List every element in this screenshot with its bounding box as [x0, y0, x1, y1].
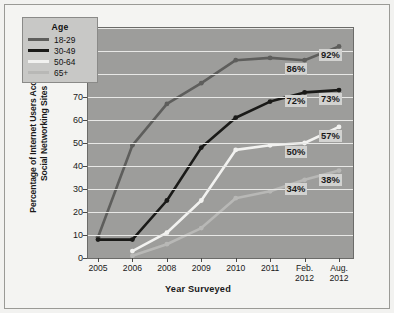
y-axis-tick-label: 30: [59, 184, 83, 194]
legend-item-label: 65+: [54, 68, 68, 78]
legend-rows: 18-2930-4950-6465+: [28, 34, 92, 78]
data-point-18-29: [302, 58, 307, 63]
legend: Age 18-2930-4950-6465+: [22, 17, 98, 83]
legend-item-label: 18-29: [54, 35, 75, 45]
series-line-30-49: [98, 90, 339, 240]
data-point-65+: [337, 168, 342, 173]
x-axis-tick-mark: [201, 258, 202, 262]
data-point-18-29: [233, 58, 238, 63]
data-point-50-64: [130, 249, 135, 254]
data-point-30-49: [268, 99, 273, 104]
plot-area: [87, 27, 354, 259]
y-axis-tick-mark: [83, 189, 87, 190]
x-axis-tick-label: Aug.2012: [316, 263, 362, 283]
chart-figure: Percentage of Internet Users Accessing S…: [0, 0, 394, 313]
y-axis-tick-label: 10: [59, 230, 83, 240]
y-axis-tick-mark: [83, 97, 87, 98]
legend-item: 30-49: [28, 45, 92, 56]
x-axis-tick-mark: [167, 258, 168, 262]
x-axis-tick-mark: [132, 258, 133, 262]
data-point-65+: [199, 226, 204, 231]
gridline: [88, 212, 353, 213]
data-point-18-29: [268, 56, 273, 61]
gridline: [88, 235, 353, 236]
legend-item: 50-64: [28, 56, 92, 67]
legend-item-label: 50-64: [54, 57, 75, 67]
x-axis-tick-mark: [305, 258, 306, 262]
data-point-65+: [165, 242, 170, 247]
gridline: [88, 120, 353, 121]
data-point-30-49: [337, 88, 342, 93]
data-point-50-64: [199, 198, 204, 203]
data-label: 38%: [319, 174, 342, 186]
chart-frame: Percentage of Internet Users Accessing S…: [4, 4, 390, 309]
x-axis-title: Year Surveyed: [5, 284, 391, 294]
legend-swatch-icon: [28, 38, 49, 41]
data-label: 73%: [319, 93, 342, 105]
gridline: [88, 74, 353, 75]
gridline: [88, 166, 353, 167]
y-axis-tick-mark: [83, 166, 87, 167]
x-axis-tick-mark: [339, 258, 340, 262]
data-point-30-49: [199, 145, 204, 150]
data-point-30-49: [96, 237, 101, 242]
data-point-50-64: [337, 125, 342, 130]
data-point-65+: [302, 177, 307, 182]
x-axis-tick-label-line: Aug.: [316, 263, 362, 273]
legend-item: 65+: [28, 67, 92, 78]
y-axis-tick-label: 50: [59, 138, 83, 148]
gridline: [88, 28, 353, 29]
y-axis-tick-mark: [83, 212, 87, 213]
x-axis-tick-mark: [98, 258, 99, 262]
legend-item: 18-29: [28, 34, 92, 45]
data-label: 72%: [285, 95, 308, 107]
data-point-18-29: [165, 102, 170, 107]
gridline: [88, 143, 353, 144]
x-axis-tick-mark: [270, 258, 271, 262]
y-axis-tick-label: 0: [59, 253, 83, 263]
x-axis-tick-mark: [236, 258, 237, 262]
data-label: 57%: [319, 130, 342, 142]
y-axis-tick-mark: [83, 235, 87, 236]
y-axis-tick-mark: [83, 258, 87, 259]
legend-swatch-icon: [28, 60, 49, 63]
y-axis-tick-label: 60: [59, 115, 83, 125]
legend-item-label: 30-49: [54, 46, 75, 56]
series-line-65+: [132, 171, 339, 256]
data-label: 92%: [319, 49, 342, 61]
legend-title: Age: [28, 22, 92, 32]
y-axis-tick-mark: [83, 143, 87, 144]
legend-swatch-icon: [28, 71, 49, 74]
y-axis-tick-label: 70: [59, 92, 83, 102]
data-label: 86%: [285, 63, 308, 75]
y-axis-tick-label: 40: [59, 161, 83, 171]
data-point-18-29: [337, 44, 342, 49]
data-point-18-29: [199, 81, 204, 86]
y-axis-tick-mark: [83, 120, 87, 121]
gridline: [88, 97, 353, 98]
data-label: 34%: [285, 183, 308, 195]
y-axis-tick-label: 20: [59, 207, 83, 217]
data-label: 50%: [285, 146, 308, 158]
data-point-65+: [233, 196, 238, 201]
data-point-30-49: [302, 90, 307, 95]
data-point-30-49: [165, 198, 170, 203]
gridline: [88, 51, 353, 52]
data-point-30-49: [130, 237, 135, 242]
data-point-50-64: [233, 148, 238, 153]
x-axis-tick-label-line: 2012: [316, 273, 362, 283]
gridline: [88, 189, 353, 190]
legend-swatch-icon: [28, 49, 49, 52]
